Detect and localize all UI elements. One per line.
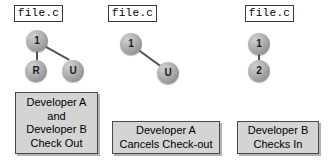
node-g2-unreserved[interactable]: U bbox=[157, 62, 179, 84]
caption-line: Developer B bbox=[248, 124, 309, 138]
node-g3-version-2[interactable]: 2 bbox=[248, 60, 270, 82]
node-g2-version-1[interactable]: 1 bbox=[120, 33, 142, 55]
file-label-group-3: file.c bbox=[245, 5, 294, 22]
caption-line: Check Out bbox=[31, 137, 83, 151]
file-label-group-1: file.c bbox=[14, 5, 63, 22]
caption-line: Developer B bbox=[26, 123, 87, 137]
node-g1-version-1[interactable]: 1 bbox=[26, 30, 48, 52]
node-g1-unreserved[interactable]: U bbox=[62, 60, 84, 82]
caption-line: Developer A bbox=[136, 124, 196, 138]
diagram-canvas: file.c 1 R U Developer A and Developer B… bbox=[0, 0, 331, 165]
node-g3-version-1[interactable]: 1 bbox=[248, 33, 270, 55]
caption-box-check-out: Developer A and Developer B Check Out bbox=[15, 92, 98, 154]
caption-line: and bbox=[47, 110, 65, 124]
caption-box-cancel-check-out: Developer A Cancels Check-out bbox=[112, 121, 220, 154]
node-g1-reserved[interactable]: R bbox=[25, 60, 47, 82]
caption-line: Cancels Check-out bbox=[120, 138, 213, 152]
file-label-group-2: file.c bbox=[108, 5, 157, 22]
caption-line: Checks In bbox=[254, 138, 303, 152]
caption-box-check-in: Developer B Checks In bbox=[237, 121, 319, 154]
caption-line: Developer A bbox=[27, 96, 87, 110]
